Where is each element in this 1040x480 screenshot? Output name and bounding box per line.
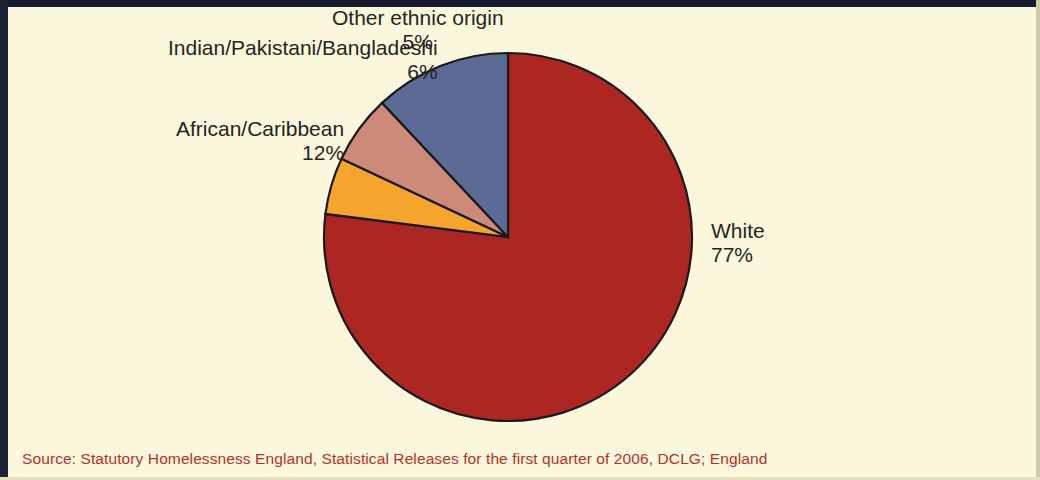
callout-african-caribbean-name: African/Caribbean	[176, 117, 344, 140]
pie-slice-group	[324, 53, 692, 421]
callout-african-caribbean: African/Caribbean 12%	[176, 117, 344, 164]
callout-indian-pakistani-bangladeshi: Indian/Pakistani/Bangladeshi 6%	[168, 36, 438, 83]
pie-chart-figure: Other ethnic origin 5% Indian/Pakistani/…	[0, 0, 1040, 480]
pie-plot-area	[0, 0, 1040, 480]
pie-svg	[0, 0, 1040, 480]
callout-white: White 77%	[711, 219, 765, 266]
callout-indian-pakistani-bangladeshi-value: 6%	[168, 60, 438, 84]
callout-other-ethnic-origin-name: Other ethnic origin	[332, 6, 504, 29]
callout-african-caribbean-value: 12%	[176, 141, 344, 165]
callout-white-value: 77%	[711, 243, 765, 267]
callout-indian-pakistani-bangladeshi-name: Indian/Pakistani/Bangladeshi	[168, 36, 438, 59]
callout-white-name: White	[711, 219, 765, 242]
source-note: Source: Statutory Homelessness England, …	[22, 450, 767, 468]
